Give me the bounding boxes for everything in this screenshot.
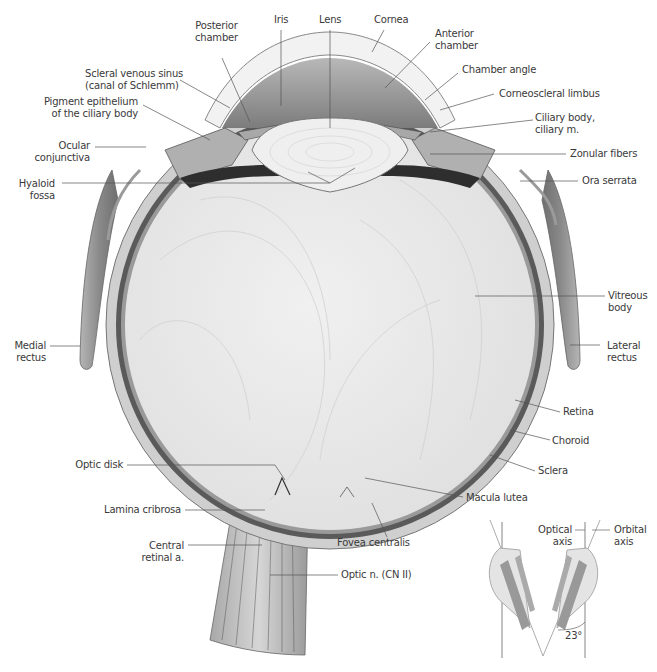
eye-section-diagram: Posterior chamber Iris Lens Cornea Anter… xyxy=(0,0,657,672)
label-scleral-venous-sinus: Scleral venous sinus (canal of Schlemm) xyxy=(85,68,175,92)
label-pigment-epithelium: Pigment epithelium of the ciliary body xyxy=(40,96,138,120)
label-medial-rectus: Medial rectus xyxy=(0,340,46,364)
label-ocular-conjunctiva: Ocular conjunctiva xyxy=(20,140,90,164)
label-cornea: Cornea xyxy=(374,14,408,26)
label-chamber-angle: Chamber angle xyxy=(462,64,536,76)
label-corneoscleral-limbus: Corneoscleral limbus xyxy=(499,88,600,100)
label-ora-serrata: Ora serrata xyxy=(582,175,637,187)
label-ciliary-body: Ciliary body, ciliary m. xyxy=(535,112,595,136)
label-optic-disk: Optic disk xyxy=(60,459,123,471)
label-anterior-chamber: Anterior chamber xyxy=(435,28,478,52)
label-optic-nerve: Optic n. (CN II) xyxy=(341,569,411,581)
label-central-retinal-artery: Central retinal a. xyxy=(120,540,184,564)
label-angle-23: 23° xyxy=(565,630,582,642)
label-optical-axis: Optical axis xyxy=(530,524,572,548)
label-macula-lutea: Macula lutea xyxy=(466,492,528,504)
label-retina: Retina xyxy=(563,406,594,418)
label-lens: Lens xyxy=(319,14,341,26)
label-posterior-chamber: Posterior chamber xyxy=(195,20,238,44)
label-orbital-axis: Orbital axis xyxy=(614,524,647,548)
label-zonular-fibers: Zonular fibers xyxy=(570,148,637,160)
label-vitreous-body: Vitreous body xyxy=(608,290,647,314)
label-sclera: Sclera xyxy=(538,465,568,477)
label-lateral-rectus: Lateral rectus xyxy=(607,340,640,364)
label-lamina-cribrosa: Lamina cribrosa xyxy=(85,504,181,516)
label-choroid: Choroid xyxy=(552,435,589,447)
label-fovea-centralis: Fovea centralis xyxy=(337,537,410,549)
label-iris: Iris xyxy=(274,14,288,26)
label-hyaloid-fossa: Hyaloid fossa xyxy=(10,178,55,202)
